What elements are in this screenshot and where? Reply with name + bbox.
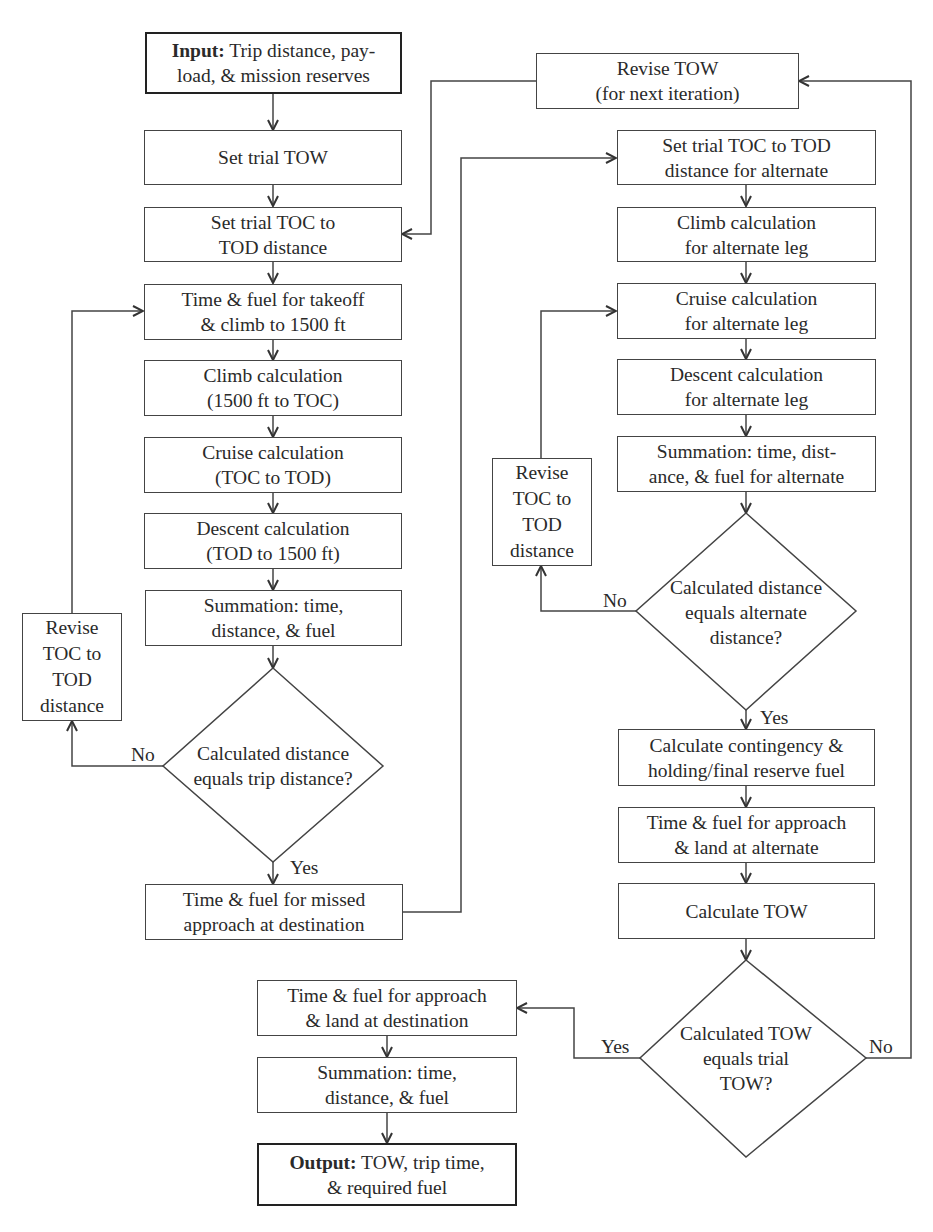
decision-alternate-text: Calculated distance equals alternate dis… — [666, 558, 826, 666]
climb-box: Climb calculation(1500 ft to TOC) — [144, 360, 402, 416]
summation-box: Summation: time,distance, & fuel — [145, 590, 402, 646]
decision-alternate-yes-label: Yes — [760, 707, 788, 729]
output-label: Output: — [289, 1152, 356, 1173]
descent-alternate-box: Descent calculationfor alternate leg — [617, 359, 876, 415]
missed-approach-box: Time & fuel for missedapproach at destin… — [145, 884, 403, 940]
decision-trip-text: Calculated distance equals trip distance… — [193, 726, 353, 806]
flowchart-canvas: Input: Trip distance, pay- load, & missi… — [0, 0, 933, 1232]
decision-tow-yes-label: Yes — [601, 1036, 629, 1058]
input-box: Input: Trip distance, pay- load, & missi… — [145, 32, 402, 94]
approach-destination-box: Time & fuel for approach& land at destin… — [257, 980, 517, 1036]
cruise-alternate-box: Cruise calculationfor alternate leg — [617, 283, 876, 339]
contingency-box: Calculate contingency &holding/final res… — [618, 729, 875, 786]
descent-box: Descent calculation(TOD to 1500 ft) — [144, 513, 402, 569]
decision-tow-no-label: No — [869, 1036, 893, 1058]
summation-final-box: Summation: time,distance, & fuel — [257, 1057, 517, 1113]
revise-toc-box-left: Revise TOC to TOD distance — [22, 613, 122, 721]
input-label: Input: — [172, 40, 225, 61]
climb-alternate-box: Climb calculationfor alternate leg — [617, 207, 876, 262]
summation-alternate-box: Summation: time, dist-ance, & fuel for a… — [617, 436, 876, 492]
set-trial-tow-box: Set trial TOW — [144, 130, 402, 185]
decision-tow-text: Calculated TOW equals trial TOW? — [676, 1018, 816, 1098]
output-box: Output: TOW, trip time, & required fuel — [257, 1143, 517, 1206]
revise-tow-box: Revise TOW(for next iteration) — [536, 53, 799, 109]
calculate-tow-box: Calculate TOW — [618, 883, 875, 939]
revise-toc-box-right: Revise TOC to TOD distance — [492, 458, 592, 566]
set-trial-toc-box: Set trial TOC toTOD distance — [144, 207, 402, 262]
set-trial-toc-alternate-box: Set trial TOC to TODdistance for alterna… — [617, 130, 876, 185]
decision-alternate-no-label: No — [603, 590, 627, 612]
decision-trip-no-label: No — [131, 744, 155, 766]
decision-trip-yes-label: Yes — [290, 857, 318, 879]
takeoff-box: Time & fuel for takeoff& climb to 1500 f… — [144, 284, 402, 340]
cruise-box: Cruise calculation(TOC to TOD) — [144, 437, 402, 493]
approach-alternate-box: Time & fuel for approach& land at altern… — [618, 807, 875, 863]
